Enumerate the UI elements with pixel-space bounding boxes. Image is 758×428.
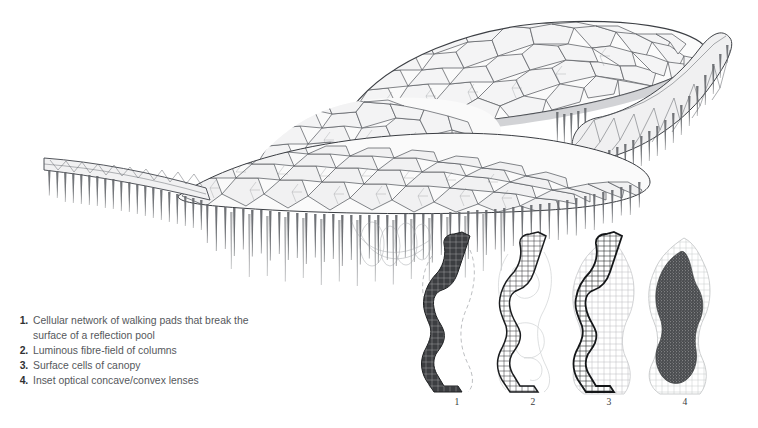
legend-item-3: 3. Surface cells of canopy <box>13 359 283 374</box>
legend-item-4: 4. Inset optical concave/convex lenses <box>13 374 283 389</box>
plan-label: 4 <box>646 396 724 407</box>
plan-optical-lenses: 4 <box>646 228 724 424</box>
left-walkway <box>44 158 210 230</box>
legend-number: 1. <box>13 314 28 329</box>
legend-number: 2. <box>13 344 28 359</box>
diagram-sheet: 1. Cellular network of walking pads that… <box>0 0 758 428</box>
legend-label: Luminous fibre-field of columns <box>28 344 283 359</box>
legend-label: Cellular network of walking pads that br… <box>28 314 283 343</box>
legend-number: 4. <box>13 374 28 389</box>
legend: 1. Cellular network of walking pads that… <box>13 314 283 389</box>
plan-label: 3 <box>570 396 648 407</box>
plan-canopy-surface-cells: 3 <box>570 228 648 424</box>
plan-fibre-field-columns: 2 <box>494 228 572 424</box>
legend-item-2: 2. Luminous fibre-field of columns <box>13 344 283 359</box>
legend-label: Inset optical concave/convex lenses <box>28 374 283 389</box>
legend-item-1: 1. Cellular network of walking pads that… <box>13 314 283 343</box>
plan-walking-pads: 1 <box>418 228 496 424</box>
legend-label: Surface cells of canopy <box>28 359 283 374</box>
plan-label: 1 <box>418 396 496 407</box>
plan-label: 2 <box>494 396 572 407</box>
plan-diagram-series: 1 <box>418 228 748 424</box>
legend-number: 3. <box>13 359 28 374</box>
